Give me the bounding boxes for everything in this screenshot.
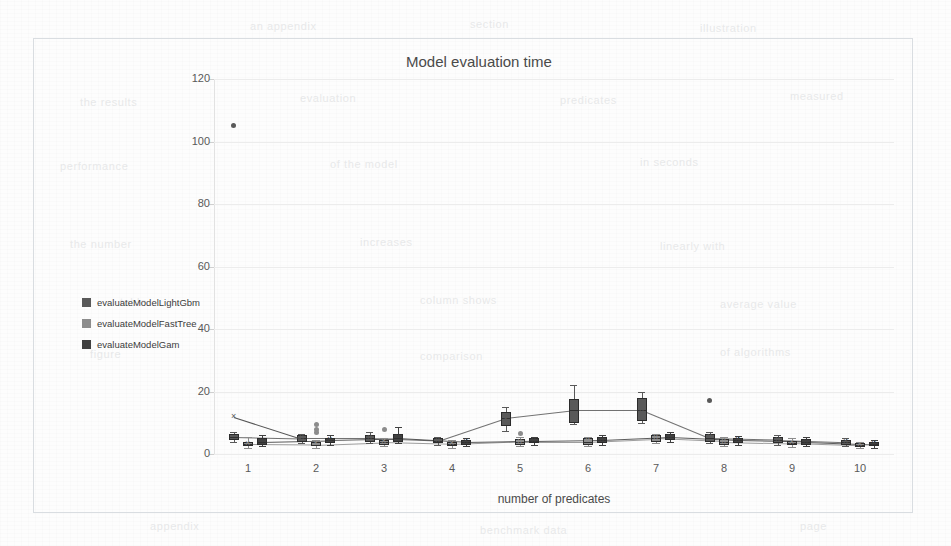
legend-label-lightgbm: evaluateModelLightGbm (97, 297, 200, 308)
mean-marker: × (503, 415, 508, 424)
whisker-cap-upper (638, 392, 645, 393)
y-tick-label: 0 (170, 447, 210, 459)
whisker-cap-lower (667, 442, 674, 443)
mean-marker: × (707, 432, 712, 441)
mean-marker: × (571, 404, 576, 413)
ghost-text-fragment: page (800, 520, 827, 532)
ghost-text-fragment: section (470, 18, 509, 30)
x-tick-label: 7 (636, 462, 676, 474)
whisker-cap-lower (230, 442, 237, 443)
chart-title: Model evaluation time (319, 53, 639, 70)
y-tick-label: 40 (170, 322, 210, 334)
mean-marker: × (789, 438, 794, 447)
x-tick-label: 10 (840, 462, 880, 474)
x-tick-label: 2 (296, 462, 336, 474)
mean-marker: × (259, 436, 264, 445)
whisker-cap-lower (652, 443, 659, 444)
whisker-cap-lower (380, 446, 387, 447)
mean-marker: × (327, 435, 332, 444)
chart-frame: Model evaluation time evaluateModelLight… (33, 38, 913, 513)
whisker-cap-lower (502, 431, 509, 432)
whisker-cap-lower (259, 446, 266, 447)
mean-marker: × (653, 433, 658, 442)
whisker-cap-lower (395, 443, 402, 444)
whisker-cap-lower (327, 445, 334, 446)
mean-marker: × (775, 435, 780, 444)
whisker-cap-lower (788, 447, 795, 448)
mean-marker: × (735, 435, 740, 444)
whisker-cap-lower (298, 443, 305, 444)
mean-marker: × (843, 437, 848, 446)
ghost-text-fragment: appendix (150, 520, 199, 532)
mean-marker: × (395, 432, 400, 441)
gridline (214, 454, 894, 455)
x-tick-label: 8 (704, 462, 744, 474)
gridline (214, 267, 894, 268)
legend-item[interactable]: evaluateModelLightGbm (82, 297, 200, 308)
x-axis-title: number of predicates (214, 492, 894, 506)
x-tick-label: 5 (500, 462, 540, 474)
x-tick-label: 1 (228, 462, 268, 474)
legend-swatch-gam (82, 340, 91, 349)
y-tick-label: 20 (170, 385, 210, 397)
legend-swatch-fasttree (82, 319, 91, 328)
legend-label-gam: evaluateModelGam (97, 339, 179, 350)
outlier-point[interactable] (382, 427, 387, 432)
mean-marker: × (599, 435, 604, 444)
y-tick-label: 60 (170, 260, 210, 272)
mean-marker: × (463, 437, 468, 446)
mean-marker: × (639, 405, 644, 414)
whisker-cap-lower (706, 443, 713, 444)
whisker-cap-lower (803, 446, 810, 447)
whisker-cap-lower (720, 446, 727, 447)
ghost-text-fragment: an appendix (250, 20, 317, 32)
gridline (214, 79, 894, 80)
mean-marker: × (857, 440, 862, 449)
mean-marker: × (381, 437, 386, 446)
whisker-cap-upper (570, 385, 577, 386)
mean-marker: × (721, 437, 726, 446)
gridline (214, 392, 894, 393)
whisker-cap-lower (463, 446, 470, 447)
mean-marker: × (517, 437, 522, 446)
median-line (229, 437, 239, 438)
whisker-cap-lower (735, 445, 742, 446)
x-tick-label: 6 (568, 462, 608, 474)
whisker-cap-lower (434, 445, 441, 446)
gridline (214, 329, 894, 330)
whisker-cap-lower (638, 423, 645, 424)
outlier-point[interactable] (707, 398, 712, 403)
outlier-point[interactable] (314, 430, 319, 435)
legend-item[interactable]: evaluateModelGam (82, 339, 200, 350)
mean-marker: × (435, 436, 440, 445)
y-tick-label: 80 (170, 197, 210, 209)
ghost-text-fragment: illustration (700, 22, 757, 34)
y-tick-label: 100 (170, 135, 210, 147)
x-tick-label: 9 (772, 462, 812, 474)
whisker-cap-lower (531, 445, 538, 446)
whisker-cap-lower (570, 424, 577, 425)
plot-area: 020406080100120 12345678910 ××××××××××××… (214, 79, 894, 454)
whisker-cap-lower (516, 446, 523, 447)
mean-marker: × (367, 433, 372, 442)
ghost-text-fragment: benchmark data (480, 524, 567, 536)
outlier-point[interactable] (231, 123, 236, 128)
whisker-cap-lower (842, 446, 849, 447)
mean-marker: × (803, 437, 808, 446)
trend-line-segment (506, 410, 574, 419)
x-tick-label: 3 (364, 462, 404, 474)
mean-marker: × (245, 439, 250, 448)
x-tick-label: 4 (432, 462, 472, 474)
mean-marker: × (667, 432, 672, 441)
mean-marker: × (871, 439, 876, 448)
mean-marker: × (313, 439, 318, 448)
whisker-cap-lower (599, 445, 606, 446)
whisker-cap-upper (502, 407, 509, 408)
mean-marker: × (531, 436, 536, 445)
mean-marker: × (449, 439, 454, 448)
whisker-cap-upper (395, 427, 402, 428)
legend-swatch-lightgbm (82, 298, 91, 307)
whisker-cap-lower (244, 448, 251, 449)
outlier-point[interactable] (518, 431, 523, 436)
y-tick-label: 120 (170, 72, 210, 84)
